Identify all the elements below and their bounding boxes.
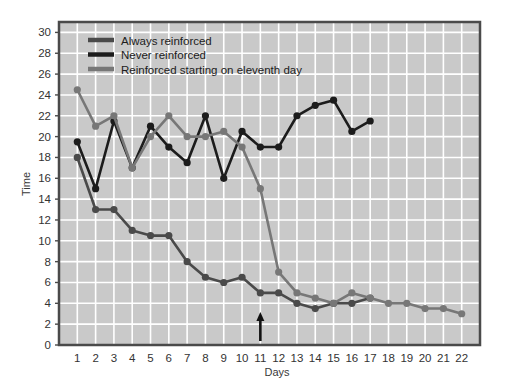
data-point [220,175,227,182]
x-tick-label: 15 [327,352,340,364]
data-point [202,133,209,140]
x-tick-label: 22 [455,352,468,364]
data-point [147,232,154,239]
y-tick-label: 6 [45,276,51,288]
y-tick-label: 22 [38,110,51,122]
data-point [238,143,245,150]
x-tick-label: 2 [92,352,98,364]
data-point [257,289,264,296]
data-point [257,143,264,150]
x-tick-label: 4 [129,352,136,364]
x-axis-title: Days [264,366,290,378]
x-tick-label: 19 [400,352,413,364]
data-point [312,305,319,312]
data-point [312,102,319,109]
data-point [220,128,227,135]
data-point [110,206,117,213]
y-tick-label: 2 [45,318,51,330]
data-point [220,279,227,286]
data-point [367,295,374,302]
legend-label-0: Always reinforced [121,35,212,47]
legend-label-1: Never reinforced [121,49,206,61]
data-point [184,258,191,265]
legend-label-2: Reinforced starting on eleventh day [121,64,302,76]
data-point [74,154,81,161]
data-point [202,274,209,281]
x-tick-label: 1 [74,352,80,364]
data-point [74,138,81,145]
x-tick-label: 17 [364,352,377,364]
data-point [74,86,81,93]
data-point [129,227,136,234]
data-point [293,289,300,296]
data-point [403,300,410,307]
data-point [275,143,282,150]
data-point [238,128,245,135]
x-tick-label: 8 [202,352,208,364]
x-tick-label: 12 [272,352,285,364]
y-tick-label: 28 [38,47,51,59]
data-point [238,274,245,281]
x-tick-label: 21 [437,352,450,364]
data-point [330,97,337,104]
y-axis-title: Time [20,172,32,196]
data-point [92,206,99,213]
y-tick-label: 30 [38,26,51,38]
data-point [458,310,465,317]
data-point [165,143,172,150]
x-tick-label: 10 [236,352,249,364]
x-tick-label: 3 [111,352,117,364]
data-point [92,123,99,130]
x-tick-label: 7 [184,352,190,364]
data-point [367,117,374,124]
data-point [312,295,319,302]
y-tick-label: 18 [38,151,51,163]
data-point [92,185,99,192]
y-tick-label: 26 [38,68,51,80]
x-tick-label: 14 [309,352,322,364]
data-point [257,185,264,192]
y-tick-label: 8 [45,256,51,268]
data-point [129,164,136,171]
x-tick-label: 13 [291,352,304,364]
data-point [184,133,191,140]
y-tick-label: 4 [45,297,52,309]
x-tick-label: 5 [147,352,153,364]
y-tick-label: 16 [38,172,51,184]
data-point [348,300,355,307]
data-point [348,128,355,135]
data-point [293,112,300,119]
data-point [110,112,117,119]
data-point [275,268,282,275]
x-tick-label: 6 [166,352,172,364]
data-point [165,232,172,239]
data-point [421,305,428,312]
data-point [440,305,447,312]
experiment-line-chart: 024681012141618202224262830 123456789101… [0,0,525,388]
data-point [348,289,355,296]
x-tick-label: 16 [345,352,358,364]
y-tick-label: 10 [38,235,51,247]
y-tick-label: 12 [38,214,51,226]
y-tick-label: 20 [38,131,51,143]
data-point [293,300,300,307]
y-tick-label: 24 [38,89,51,101]
data-point [202,112,209,119]
x-tick-label: 18 [382,352,395,364]
data-point [385,300,392,307]
data-point [147,133,154,140]
x-tick-label: 9 [221,352,227,364]
data-point [275,289,282,296]
y-tick-label: 0 [45,339,51,351]
data-point [165,112,172,119]
y-tick-label: 14 [38,193,51,205]
x-tick-label: 20 [419,352,432,364]
data-point [184,159,191,166]
x-tick-label: 11 [254,352,266,364]
data-point [330,300,337,307]
data-point [147,123,154,130]
